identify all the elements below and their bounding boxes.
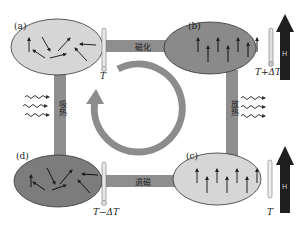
magnetization-label: 磁化: [135, 41, 151, 52]
diagram-graphics: [0, 0, 301, 227]
absorb-heat-label: 吸热: [56, 100, 67, 116]
field-label-c: H: [282, 183, 287, 191]
thermometer-b-icon: [269, 28, 274, 67]
temperature-c-label: T: [267, 207, 273, 217]
panel-b-label: (b): [188, 21, 201, 31]
demagnetization-label: 退磁: [135, 176, 151, 187]
release-heat-label: 放热: [228, 100, 239, 116]
panel-d-ellipse: [14, 155, 102, 207]
temperature-a-label: T: [100, 71, 106, 81]
thermometer-a-icon: [102, 28, 107, 72]
heat-absorb-waves-icon: [23, 96, 49, 117]
panel-c-label: (c): [186, 151, 198, 161]
field-label-b: H: [282, 50, 287, 58]
thermometer-d-icon: [102, 162, 107, 206]
panel-a-label: (a): [14, 21, 26, 31]
panel-d-label: (d): [16, 151, 29, 161]
heat-release-waves-icon: [241, 97, 265, 118]
temperature-d-label: T−ΔT: [93, 207, 119, 217]
magnetic-field-arrow-c-icon: [276, 146, 294, 213]
panel-b-ellipse: [164, 22, 257, 74]
thermometer-c-icon: [268, 160, 272, 198]
temperature-b-label: T+ΔT: [255, 67, 281, 77]
